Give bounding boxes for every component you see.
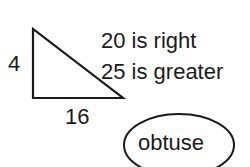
side-label-vertical: 4 (8, 53, 20, 75)
note-line-1: 20 is right (101, 30, 196, 52)
answer-label: obtuse (138, 132, 204, 154)
note-line-2: 25 is greater (101, 61, 223, 83)
side-label-bottom: 16 (65, 106, 89, 128)
worksheet-canvas: 4 16 20 is right 25 is greater obtuse (0, 0, 250, 167)
